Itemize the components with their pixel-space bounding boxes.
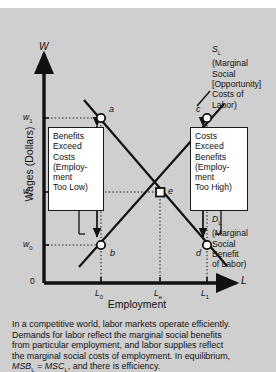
point-c [203,114,211,122]
caption-msb: MSB [12,361,31,371]
supply-curve-line-5: Labor) [212,100,261,110]
annotation-right-line-1: Costs [195,131,243,141]
supply-curve-line-3: [Opportunity] [212,79,261,89]
annotation-right-line-6: Too High) [195,182,243,192]
figure-plate: Wages (Dollars) Employment W L 0 w1 we w… [0,8,276,372]
x-tick-Le: Le [154,289,162,300]
chart-area: Wages (Dollars) Employment W L 0 w1 we w… [0,8,276,313]
x-axis-symbol: L [241,276,247,286]
demand-curve-line-2: Social [212,239,248,249]
x-tick-L0: L0 [95,289,103,300]
demand-curve-label: DL (Marginal Social Benefit of Labor) [212,214,248,270]
annotation-right-line-4: (Employ- [195,162,243,172]
x-axis-title: Employment [44,298,230,310]
point-b [97,241,105,249]
annotation-left-line-3: Costs [53,152,99,162]
x-tick-L1: L1 [201,289,209,300]
supply-curve-label: SL (Marginal Social [Opportunity] Costs … [212,44,261,110]
annotation-box-left: Benefits Exceed Costs (Employ- ment Too … [48,127,104,211]
supply-curve-line-4: Costs of [212,89,261,99]
point-label-d: d [196,248,201,258]
supply-curve-line-1: (Marginal [212,58,261,68]
caption-equation-line: MSBL = MSCL, and there is efficiency. [12,361,266,372]
figure-page: Wages (Dollars) Employment W L 0 w1 we w… [0,0,276,372]
caption-line-3: from particular employment, and labor su… [12,340,266,351]
point-e [156,188,165,197]
supply-curve-line-2: Social [212,69,261,79]
point-label-a: a [109,104,114,114]
annotation-left-line-6: Too Low) [53,182,99,192]
y-tick-w1: w1 [23,113,32,124]
origin-label: 0 [30,277,35,286]
demand-curve-line-1: (Marginal [212,228,248,238]
annotation-left-line-5: ment [53,172,99,182]
annotation-left-line-2: Exceed [53,141,99,151]
caption-line-4: the marginal social costs of employment.… [12,351,266,362]
figure-caption: In a competitive world, labor markets op… [12,319,266,372]
y-tick-we: we [23,187,32,198]
caption-eq-suffix: , and there is efficiency. [68,361,160,371]
demand-curve-symbol: DL [212,214,248,228]
point-d [203,241,211,249]
demand-curve-line-3: Benefit [212,249,248,259]
caption-line-2: Demands for labor reflect the marginal s… [12,330,266,341]
demand-curve-line-4: of Labor) [212,259,248,269]
annotation-right-line-3: Benefits [195,152,243,162]
cut-off-header-text [60,0,63,3]
caption-line-1: In a competitive world, labor markets op… [12,319,266,330]
point-label-c: c [196,104,201,114]
y-tick-w0: w0 [23,240,32,251]
point-a [97,114,105,122]
caption-eq-mid: = MSC [35,361,65,371]
point-label-e: e [168,186,173,196]
annotation-left-line-4: (Employ- [53,162,99,172]
y-axis-symbol: W [39,42,48,52]
annotation-left-line-1: Benefits [53,131,99,141]
annotation-box-right: Costs Exceed Benefits (Employ- ment Too … [190,127,248,211]
annotation-right-line-2: Exceed [195,141,243,151]
supply-curve-symbol: SL [212,44,261,58]
cut-off-header-strip [0,0,276,8]
y-axis-title: Wages (Dollars) [23,109,35,219]
point-label-b: b [110,248,115,258]
annotation-right-line-5: ment [195,172,243,182]
